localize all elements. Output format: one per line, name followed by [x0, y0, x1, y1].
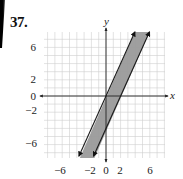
- boundary-line-y-equals-2x-minus-4: [94, 32, 150, 156]
- x-axis-label: x: [169, 89, 175, 101]
- x-tick-label: 2: [117, 164, 123, 176]
- grid-lines: [44, 32, 165, 158]
- y-tick-label: 0: [31, 90, 37, 102]
- x-tick-label: 6: [147, 164, 153, 176]
- y-tick-label: 2: [31, 73, 37, 85]
- x-tick-labels: −6 −2 0 2 6: [54, 164, 153, 176]
- y-tick-label: −6: [25, 137, 37, 149]
- x-tick-label: −2: [84, 164, 96, 176]
- x-tick-label: −6: [54, 164, 66, 176]
- inequality-graph: x y 6 2 0 −2 −6 −6 −2 0 2 6: [0, 0, 183, 179]
- x-tick-label: 0: [103, 164, 109, 176]
- y-tick-label: 6: [31, 41, 37, 53]
- y-tick-labels: 6 2 0 −2 −6: [25, 41, 37, 149]
- y-tick-label: −2: [25, 104, 37, 116]
- boundary-line-y-equals-2x: [79, 32, 135, 156]
- y-axis-label: y: [103, 15, 109, 27]
